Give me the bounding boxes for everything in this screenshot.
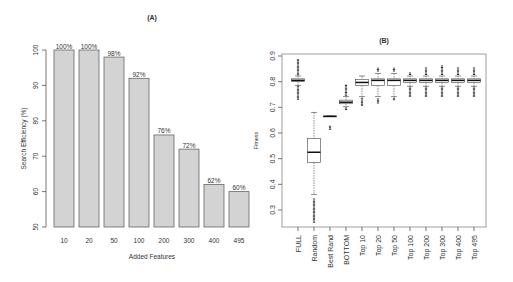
box-top-300 <box>436 65 449 97</box>
box-bottom <box>340 84 353 110</box>
box-top-10 <box>356 76 369 106</box>
box-best-rand <box>324 116 337 130</box>
x-tick-label: BOTTOM <box>343 235 350 265</box>
x-tick-label: FULL <box>295 235 302 252</box>
box-top-400 <box>452 68 465 98</box>
x-tick-label: Top 200 <box>423 235 431 260</box>
x-tick-label: Top 10 <box>359 235 367 256</box>
iqr-box <box>308 139 321 163</box>
box-random <box>308 112 321 222</box>
y-tick-label: 0.9 <box>269 51 276 61</box>
x-tick-label: Top 300 <box>439 235 447 260</box>
y-tick-label: 0.4 <box>269 179 276 189</box>
y-tick-label: 0.3 <box>269 205 276 215</box>
x-tick-label: Best Rand <box>327 235 334 268</box>
box-top-200 <box>420 68 433 98</box>
box-top-100 <box>404 72 417 97</box>
chart-b-title: (B) <box>379 37 389 45</box>
x-tick-label: Random <box>311 235 318 262</box>
x-tick-label: Top 50 <box>391 235 399 256</box>
box-full <box>292 59 305 100</box>
y-tick-label: 0.7 <box>269 102 276 112</box>
x-tick-label: Top 495 <box>471 235 479 260</box>
x-tick-label: Top 20 <box>375 235 383 256</box>
y-tick-label: 0.5 <box>269 154 276 164</box>
box-top-50 <box>388 68 401 101</box>
y-axis-label: Fitness <box>253 131 259 149</box>
box-top-495 <box>468 68 481 98</box>
y-tick-label: 0.8 <box>269 77 276 87</box>
y-tick-label: 0.6 <box>269 128 276 138</box>
box-top-20 <box>372 68 385 104</box>
boxplot-fitness: (B)0.30.40.50.60.70.80.9FitnessFULLRando… <box>0 0 513 282</box>
x-tick-label: Top 400 <box>455 235 463 260</box>
x-tick-label: Top 100 <box>407 235 415 260</box>
